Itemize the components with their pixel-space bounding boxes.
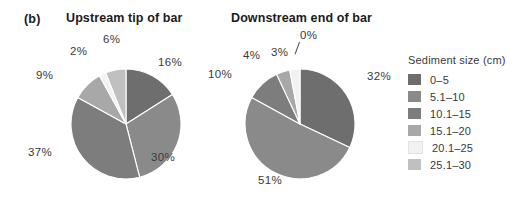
legend: Sediment size (cm) 0–55.1–1010.1–1515.1–… — [408, 54, 526, 174]
slice-value-label: 37% — [28, 146, 52, 158]
panel-letter: (b) — [24, 12, 41, 26]
legend-item-3: 10.1–15 — [408, 106, 526, 121]
legend-swatch-icon — [408, 159, 421, 170]
legend-swatch-icon — [408, 141, 423, 154]
legend-swatch-icon — [408, 125, 421, 136]
legend-item-6: 25.1–30 — [408, 157, 526, 172]
legend-item-label: 5.1–10 — [430, 91, 465, 103]
slice-value-label: 2% — [70, 45, 87, 57]
chart-title-upstream: Upstream tip of bar — [66, 11, 183, 25]
slice-value-label: 16% — [158, 56, 182, 68]
legend-title: Sediment size (cm) — [408, 54, 526, 66]
slice-value-label: 4% — [243, 49, 260, 61]
legend-swatch-icon — [408, 74, 421, 85]
slice-value-label: 32% — [367, 70, 391, 82]
slice-value-label: 10% — [208, 68, 232, 80]
legend-item-label: 10.1–15 — [430, 108, 471, 120]
pie-chart-upstream — [70, 68, 182, 180]
legend-item-2: 5.1–10 — [408, 89, 526, 104]
pie-chart-downstream — [244, 68, 356, 180]
slice-value-label: 51% — [258, 174, 282, 186]
legend-item-label: 25.1–30 — [430, 159, 471, 171]
legend-item-4: 15.1–20 — [408, 123, 526, 138]
chart-title-downstream: Downstream end of bar — [231, 11, 372, 25]
slice-value-label: 9% — [36, 69, 53, 81]
slice-value-label: 6% — [103, 33, 120, 45]
pie-svg-upstream — [70, 68, 182, 180]
pie-svg-downstream — [244, 68, 356, 180]
figure-panel-b: (b) Upstream tip of bar Downstream end o… — [0, 0, 531, 222]
legend-item-label: 20.1–25 — [432, 142, 473, 154]
slice-value-label: 0% — [300, 29, 317, 41]
legend-item-5: 20.1–25 — [408, 140, 526, 155]
leader-line-zero-percent — [295, 42, 300, 55]
legend-swatch-icon — [408, 108, 421, 119]
slice-value-label: 3% — [271, 46, 288, 58]
slice-value-label: 30% — [151, 151, 175, 163]
legend-item-1: 0–5 — [408, 72, 526, 87]
legend-item-label: 0–5 — [430, 74, 449, 86]
legend-item-label: 15.1–20 — [430, 125, 471, 137]
legend-rows: 0–55.1–1010.1–1515.1–2020.1–2525.1–30 — [408, 72, 526, 172]
legend-swatch-icon — [408, 91, 421, 102]
